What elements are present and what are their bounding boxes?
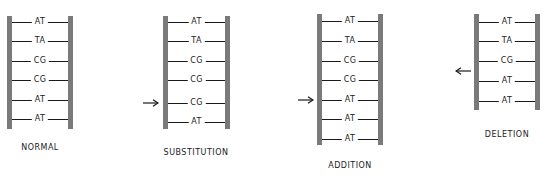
ladder-normal: AT TA CG CG AT AT <box>7 16 73 129</box>
base-pair-label: TA <box>342 36 358 46</box>
arrow-left-icon <box>455 67 471 75</box>
base-pair-label: CG <box>187 75 205 85</box>
caption-normal: NORMAL <box>0 143 95 152</box>
base-pair-label: AT <box>499 17 515 27</box>
base-pair-label: CG <box>498 56 516 66</box>
ladder-addition: AT TA CG CG AT AT AT <box>317 14 383 145</box>
base-pair-label: AT <box>32 17 48 27</box>
backbone-left <box>163 16 168 129</box>
base-pair-label: AT <box>32 95 48 105</box>
backbone-right <box>378 14 383 145</box>
base-pair-label: AT <box>188 17 204 27</box>
base-pair-label: TA <box>499 36 515 46</box>
backbone-right <box>535 14 540 110</box>
caption-deletion: DELETION <box>452 130 555 139</box>
arrow-right-icon <box>143 99 159 107</box>
caption-addition: ADDITION <box>295 161 405 170</box>
arrow-right-icon <box>298 96 314 104</box>
base-pair-label: AT <box>342 16 358 26</box>
base-pair-label: CG <box>31 56 49 66</box>
base-pair-label: TA <box>188 36 204 46</box>
base-pair-label: TA <box>32 36 48 46</box>
ladder-substitution: AT TA CG CG CG AT <box>163 16 230 129</box>
backbone-right <box>225 16 230 129</box>
backbone-left <box>474 14 479 110</box>
base-pair-label: AT <box>342 114 358 124</box>
backbone-right <box>68 16 73 129</box>
base-pair-label: CG <box>31 75 49 85</box>
base-pair-label: CG <box>187 98 205 108</box>
caption-substitution: SUBSTITUTION <box>141 148 251 157</box>
base-pair-label: AT <box>342 95 358 105</box>
base-pair-label: AT <box>342 134 358 144</box>
base-pair-label: AT <box>32 114 48 124</box>
base-pair-label: CG <box>187 56 205 66</box>
base-pair-label: AT <box>188 117 204 127</box>
base-pair-label: CG <box>341 75 359 85</box>
base-pair-label: CG <box>341 56 359 66</box>
base-pair-label: AT <box>499 96 515 106</box>
base-pair-label: AT <box>499 76 515 86</box>
backbone-left <box>7 16 12 129</box>
ladder-deletion: AT TA CG AT AT <box>474 14 540 110</box>
